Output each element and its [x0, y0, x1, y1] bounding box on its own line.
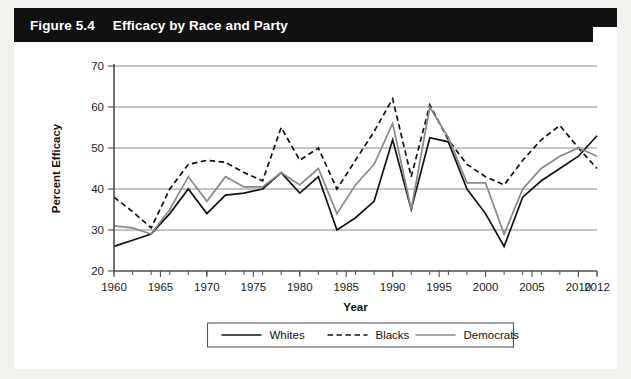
series-line-blacks	[114, 99, 597, 228]
y-tick-label: 50	[91, 142, 104, 154]
data-series-group	[114, 99, 597, 247]
x-tick-label: 2012	[584, 281, 610, 293]
y-axis-ticks-group: 203040506070	[91, 60, 114, 277]
x-tick-label: 1980	[287, 281, 313, 293]
y-axis-title: Percent Efficacy	[50, 123, 62, 213]
x-tick-label: 1965	[148, 281, 174, 293]
x-tick-label: 2000	[473, 281, 499, 293]
y-tick-label: 40	[91, 183, 104, 195]
x-tick-label: 1985	[333, 281, 359, 293]
figure-number: Figure 5.4	[30, 18, 95, 33]
x-tick-label: 1970	[194, 281, 220, 293]
figure-caption: Efficacy by Race and Party	[113, 18, 288, 33]
series-line-democrats	[114, 107, 597, 234]
y-tick-label: 60	[91, 101, 104, 113]
x-tick-label: 1975	[241, 281, 267, 293]
legend-label-whites: Whites	[270, 329, 305, 341]
gridlines-group	[114, 66, 597, 230]
y-tick-label: 30	[91, 224, 104, 236]
legend-label-democrats: Democrats	[464, 329, 520, 341]
figure-container: Figure 5.4 Efficacy by Race and Party 20…	[0, 0, 631, 379]
x-tick-label: 1995	[426, 281, 452, 293]
x-tick-label: 1990	[380, 281, 406, 293]
x-tick-label: 1960	[101, 281, 127, 293]
chart-legend: WhitesBlacksDemocrats	[208, 323, 520, 347]
chart-plot-region: 203040506070 196019651970197519801985199…	[14, 42, 617, 369]
line-chart: 203040506070 196019651970197519801985199…	[14, 42, 617, 369]
x-axis-ticks-group: 1960196519701975198019851990199520002005…	[101, 271, 610, 293]
y-tick-label: 20	[91, 265, 104, 277]
legend-label-blacks: Blacks	[376, 329, 410, 341]
figure-title-bar: Figure 5.4 Efficacy by Race and Party	[14, 8, 617, 42]
y-tick-label: 70	[91, 60, 104, 72]
title-bar-notch	[593, 27, 617, 42]
x-tick-label: 2005	[519, 281, 545, 293]
x-axis-title: Year	[343, 301, 368, 313]
